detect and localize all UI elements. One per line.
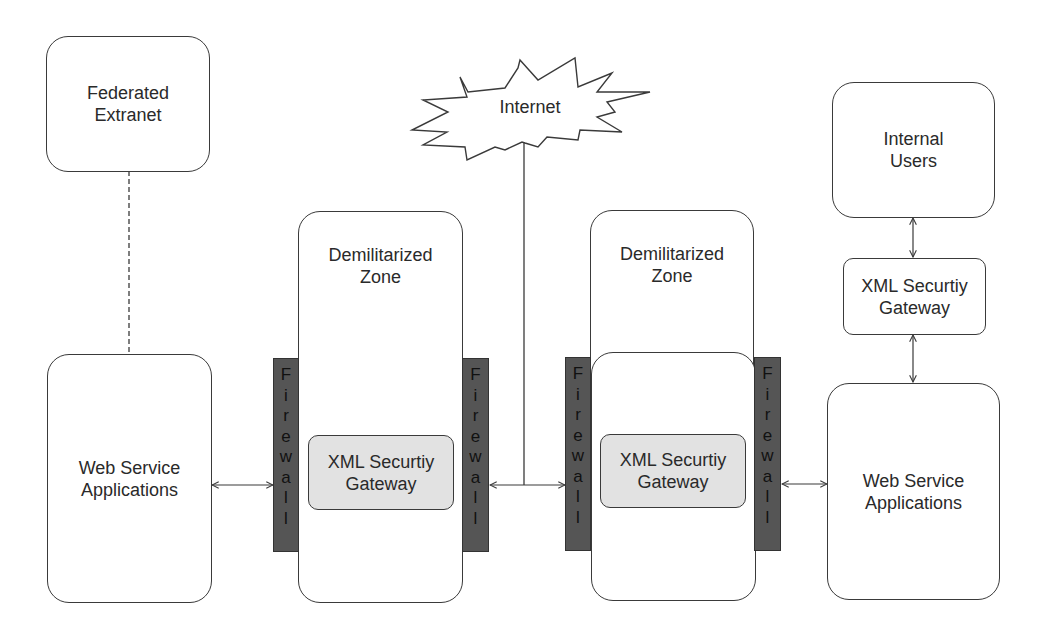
firewall-letter: w xyxy=(469,447,481,468)
firewall-1: F i r e w a l l xyxy=(273,358,299,552)
firewall-letter: a xyxy=(281,468,290,489)
xml-gateway-dmz-left: XML Securtiy Gateway xyxy=(308,435,454,510)
xml-gateway-dmz-right: XML Securtiy Gateway xyxy=(600,434,746,508)
firewall-letter: w xyxy=(280,447,292,468)
xml-gateway-internal-label: XML Securtiy Gateway xyxy=(861,275,967,319)
firewall-letter: l xyxy=(766,508,770,529)
web-service-right-node: Web Service Applications xyxy=(827,383,1000,600)
firewall-letter: i xyxy=(474,386,478,407)
firewall-letter: a xyxy=(471,468,480,489)
firewall-letter: r xyxy=(575,405,581,426)
internet-label: Internet xyxy=(480,92,580,122)
firewall-letter: l xyxy=(576,487,580,508)
firewall-letter: r xyxy=(765,405,771,426)
firewall-letter: e xyxy=(471,427,480,448)
firewall-3: F i r e w a l l xyxy=(565,357,591,551)
firewall-letter: F xyxy=(470,365,480,386)
web-service-right-label: Web Service Applications xyxy=(863,470,965,514)
firewall-letter: l xyxy=(474,488,478,509)
firewall-letter: F xyxy=(573,364,583,385)
web-service-left-label: Web Service Applications xyxy=(79,457,181,501)
web-service-left-node: Web Service Applications xyxy=(47,354,212,603)
firewall-letter: i xyxy=(284,386,288,407)
xml-gateway-dmz-right-label: XML Securtiy Gateway xyxy=(620,449,726,493)
firewall-letter: l xyxy=(576,508,580,529)
internal-users-node: Internal Users xyxy=(832,82,995,218)
firewall-letter: e xyxy=(281,427,290,448)
firewall-letter: w xyxy=(572,446,584,467)
firewall-letter: a xyxy=(763,467,772,488)
firewall-letter: r xyxy=(283,406,289,427)
dmz-left-node: Demilitarized Zone xyxy=(298,211,463,603)
firewall-letter: e xyxy=(763,426,772,447)
firewall-letter: a xyxy=(573,467,582,488)
federated-extranet-node: Federated Extranet xyxy=(46,36,210,172)
firewall-2: F i r e w a l l xyxy=(462,358,489,552)
xml-gateway-internal: XML Securtiy Gateway xyxy=(843,258,986,335)
firewall-letter: l xyxy=(284,509,288,530)
firewall-letter: l xyxy=(474,509,478,530)
firewall-letter: l xyxy=(284,488,288,509)
xml-gateway-dmz-left-label: XML Securtiy Gateway xyxy=(328,451,434,495)
firewall-4: F i r e w a l l xyxy=(754,357,781,551)
firewall-letter: i xyxy=(766,385,770,406)
federated-extranet-label: Federated Extranet xyxy=(87,82,169,126)
firewall-letter: l xyxy=(766,487,770,508)
firewall-letter: r xyxy=(473,406,479,427)
firewall-letter: e xyxy=(573,426,582,447)
firewall-letter: w xyxy=(761,446,773,467)
firewall-letter: F xyxy=(762,364,772,385)
firewall-letter: F xyxy=(281,365,291,386)
firewall-letter: i xyxy=(576,385,580,406)
dmz-right-label: Demilitarized Zone xyxy=(591,243,753,287)
internal-users-label: Internal Users xyxy=(883,128,943,172)
dmz-left-label: Demilitarized Zone xyxy=(299,244,462,288)
